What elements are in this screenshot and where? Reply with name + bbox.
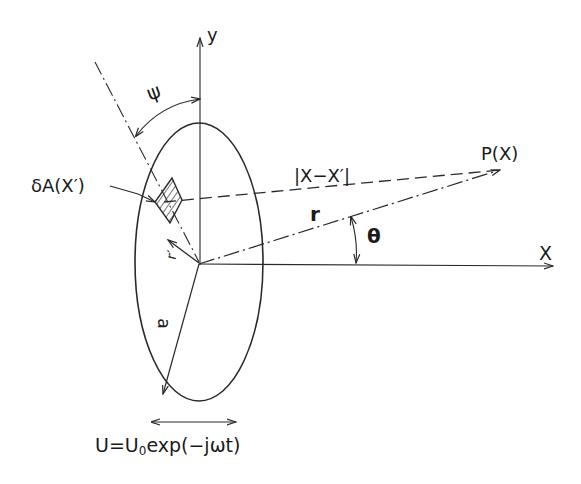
a-label: a <box>155 318 172 328</box>
diagram-canvas <box>0 0 581 484</box>
theta-label: θ <box>367 226 381 246</box>
area-element-label: δA(X′) <box>31 177 85 195</box>
formula-suffix: exp(−jωt) <box>146 434 240 456</box>
formula-prefix: U=U <box>95 434 139 456</box>
velocity-formula: U=U0exp(−jωt) <box>95 436 240 457</box>
field-point-label: P(X) <box>481 145 518 163</box>
y-axis-label: y <box>207 26 218 44</box>
distance-label: |X−X′| <box>294 167 350 185</box>
a-radius-line <box>163 264 199 394</box>
theta-arc <box>351 217 356 263</box>
x-axis <box>199 264 553 266</box>
area-element-leader <box>110 186 155 202</box>
x-axis-label: X <box>539 244 552 263</box>
r-label: r <box>310 204 320 224</box>
psi-arc <box>136 99 200 136</box>
